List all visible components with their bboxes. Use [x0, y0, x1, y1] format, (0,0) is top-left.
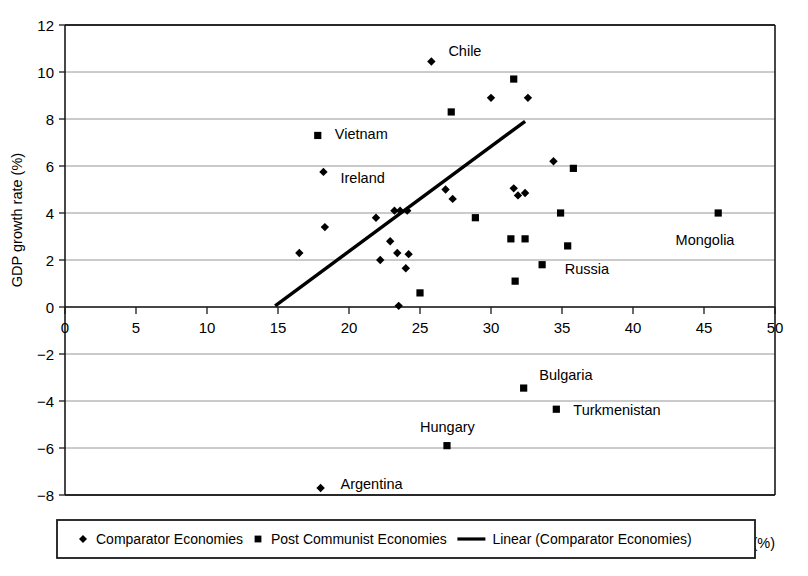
point-square-9[interactable]	[557, 209, 564, 216]
point-square-11[interactable]	[570, 165, 577, 172]
point-hungary[interactable]	[443, 442, 450, 449]
annotation-mongolia: Mongolia	[676, 232, 736, 248]
point-square-6[interactable]	[512, 278, 519, 285]
y-tick-label: −6	[37, 440, 54, 457]
x-tick-label: 5	[132, 319, 140, 336]
annotation-argentina: Argentina	[340, 476, 403, 492]
x-tick-label: 15	[270, 319, 287, 336]
x-tick-label: 0	[61, 319, 69, 336]
legend-label-1: Post Communist Economies	[271, 531, 447, 547]
point-square-1[interactable]	[416, 289, 423, 296]
legend-item-0[interactable]: Comparator Economies	[79, 531, 243, 547]
x-tick-label: 10	[199, 319, 216, 336]
legend-square-icon[interactable]	[255, 536, 262, 543]
x-tick-label: 35	[554, 319, 571, 336]
annotation-turkmenistan: Turkmenistan	[573, 402, 660, 418]
x-tick-label: 30	[483, 319, 500, 336]
legend-item-2[interactable]: Linear (Comparator Economies)	[457, 531, 691, 547]
y-tick-label: 8	[46, 111, 54, 128]
y-tick-label: 6	[46, 158, 54, 175]
y-axis-title: GDP growth rate (%)	[9, 153, 25, 287]
x-tick-label: 45	[696, 319, 713, 336]
point-turkmenistan[interactable]	[553, 406, 560, 413]
annotation-ireland: Ireland	[340, 170, 384, 186]
y-tick-label: 2	[46, 252, 54, 269]
chart-legend[interactable]: Comparator EconomiesPost Communist Econo…	[57, 520, 755, 558]
point-vietnam[interactable]	[314, 132, 321, 139]
point-russia[interactable]	[521, 235, 528, 242]
point-mongolia[interactable]	[715, 209, 722, 216]
y-tick-label: 0	[46, 299, 54, 316]
y-tick-label: −4	[37, 393, 54, 410]
annotation-russia: Russia	[565, 261, 610, 277]
point-square-10[interactable]	[564, 242, 571, 249]
annotation-hungary: Hungary	[420, 419, 476, 435]
x-tick-label: 40	[625, 319, 642, 336]
legend-label-0: Comparator Economies	[96, 531, 243, 547]
point-square-2[interactable]	[448, 108, 455, 115]
x-tick-label: 20	[341, 319, 358, 336]
point-square-8[interactable]	[539, 261, 546, 268]
point-square-5[interactable]	[510, 75, 517, 82]
x-tick-label: 25	[412, 319, 429, 336]
chart-figure: −8−6−4−2024681012 05101520253035404550 C…	[0, 0, 808, 576]
y-tick-label: 12	[37, 17, 54, 34]
point-square-4[interactable]	[507, 235, 514, 242]
annotation-vietnam: Vietnam	[335, 126, 388, 142]
chart-background	[0, 0, 808, 576]
legend-label-2: Linear (Comparator Economies)	[492, 531, 691, 547]
scatter-chart: −8−6−4−2024681012 05101520253035404550 C…	[0, 0, 808, 576]
legend-item-1[interactable]: Post Communist Economies	[255, 531, 447, 547]
y-tick-label: −2	[37, 346, 54, 363]
y-tick-label: 4	[46, 205, 54, 222]
y-tick-label: −8	[37, 487, 54, 504]
y-tick-label: 10	[37, 64, 54, 81]
annotation-bulgaria: Bulgaria	[539, 367, 593, 383]
point-square-3[interactable]	[472, 214, 479, 221]
x-tick-label: 50	[767, 319, 784, 336]
annotation-chile: Chile	[448, 43, 481, 59]
point-bulgaria[interactable]	[520, 384, 527, 391]
